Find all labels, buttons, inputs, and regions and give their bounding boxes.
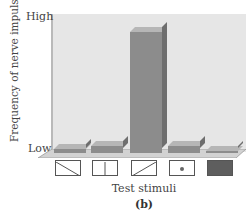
bar-5 xyxy=(206,146,243,153)
bar-3 xyxy=(130,27,167,153)
y-tick-high: High xyxy=(26,10,53,23)
x-axis-label: Test stimuli xyxy=(0,182,248,195)
stimulus-dot xyxy=(169,160,195,176)
y-axis-line xyxy=(51,14,53,154)
stimuli-row xyxy=(55,160,245,178)
stimulus-vertical-line xyxy=(92,160,118,176)
stimulus-diagonal-down xyxy=(55,160,81,176)
bar-4 xyxy=(168,141,205,153)
panel-label: (b) xyxy=(0,198,248,211)
stimulus-diagonal-up xyxy=(131,160,157,176)
bar-1 xyxy=(54,144,91,153)
stimulus-filled-square xyxy=(207,160,233,176)
bar-2 xyxy=(91,141,128,153)
y-axis-label: Frequency of nerve impulses xyxy=(8,12,22,142)
